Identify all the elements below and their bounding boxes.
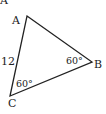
- vertex-label-c: C: [8, 97, 16, 110]
- vertex-label-a: A: [11, 14, 21, 27]
- vertex-label-b: B: [94, 58, 102, 71]
- angle-c-label: 60°: [16, 78, 33, 89]
- angle-b-label: 60°: [66, 55, 83, 66]
- triangle-diagram: A A B C 12 60° 60°: [0, 0, 106, 114]
- side-ac-length-label: 12: [1, 55, 15, 68]
- cropped-label-a: A: [0, 0, 9, 7]
